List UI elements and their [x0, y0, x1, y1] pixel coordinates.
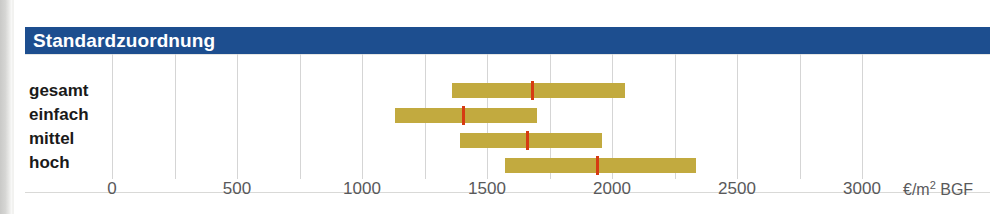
- x-tick-label-0: 0: [107, 179, 116, 199]
- range-bar-gesamt: [452, 83, 625, 98]
- median-marker-mittel: [526, 131, 529, 150]
- range-bar-mittel: [460, 133, 603, 148]
- bar-row-mittel: [0, 129, 1001, 153]
- page-title: Standardzuordnung: [25, 30, 215, 52]
- x-tick-label-3000: 3000: [843, 179, 881, 199]
- x-axis-unit-label: €/m2 BGF: [903, 179, 973, 199]
- bar-row-hoch: [0, 154, 1001, 178]
- standardzuordnung-chart-figure: Standardzuordnung gesamteinfachmittelhoc…: [0, 0, 1001, 214]
- chart-header-band: Standardzuordnung: [25, 27, 990, 54]
- x-tick-label-500: 500: [223, 179, 251, 199]
- range-bar-einfach: [395, 108, 538, 123]
- x-tick-label-1500: 1500: [468, 179, 506, 199]
- bar-row-einfach: [0, 104, 1001, 128]
- median-marker-einfach: [462, 106, 465, 125]
- bar-series: [0, 54, 1001, 179]
- range-bar-hoch: [505, 158, 696, 173]
- median-marker-hoch: [596, 156, 599, 175]
- x-tick-label-2500: 2500: [718, 179, 756, 199]
- bar-row-gesamt: [0, 79, 1001, 103]
- median-marker-gesamt: [531, 81, 534, 100]
- x-tick-label-1000: 1000: [343, 179, 381, 199]
- x-axis-unit-text: €/m2 BGF: [903, 181, 973, 198]
- x-axis: €/m2 BGF 050010001500200025003000: [0, 179, 1001, 214]
- x-tick-label-2000: 2000: [593, 179, 631, 199]
